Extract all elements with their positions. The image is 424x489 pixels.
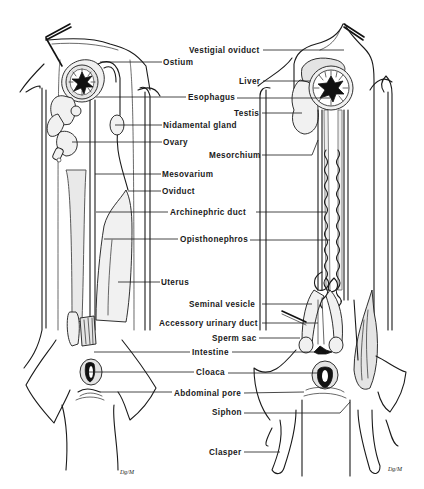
clasper [266, 410, 398, 474]
label-abdominal-pore: Abdominal pore [174, 389, 241, 398]
female-specimen: Dg/M [20, 24, 160, 475]
female-signature: Dg/M [119, 469, 135, 475]
uterus [96, 190, 132, 322]
label-ovary: Ovary [163, 138, 188, 147]
label-intestine: Intestine [192, 348, 229, 357]
dissection-pin-icon [46, 24, 71, 66]
male-cloaca [312, 361, 338, 389]
label-cloaca: Cloaca [196, 368, 225, 377]
label-accessory-urinary-duct: Accessory urinary duct [159, 319, 258, 328]
sperm-sac [299, 337, 313, 353]
label-opisthonephros: Opisthonephros [180, 235, 248, 244]
ovary [47, 96, 81, 162]
label-liver: Liver [239, 77, 261, 86]
male-signature: Dg/M [387, 466, 403, 472]
label-nidamental-gland: Nidamental gland [163, 121, 237, 130]
label-mesorchium: Mesorchium [209, 151, 261, 160]
label-ostium: Ostium [163, 58, 193, 67]
label-esophagus: Esophagus [188, 93, 235, 102]
label-archinephric-duct: Archinephric duct [170, 208, 246, 217]
male-esophagus [309, 66, 353, 110]
male-specimen: Dg/M [254, 24, 406, 476]
label-vestigial-oviduct: Vestigial oviduct [189, 46, 260, 55]
label-clasper: Clasper [209, 448, 242, 457]
female-esophagus [62, 60, 105, 102]
label-testis: Testis [234, 109, 259, 118]
label-sperm-sac: Sperm sac [212, 334, 257, 343]
anatomy-figure: Dg/M [0, 0, 424, 489]
label-seminal-vesicle: Seminal vesicle [189, 300, 255, 309]
labels: Ostium Esophagus Nidamental gland Ovary … [159, 46, 261, 457]
label-siphon: Siphon [212, 408, 242, 417]
label-oviduct: Oviduct [162, 187, 195, 196]
label-uterus: Uterus [161, 278, 189, 287]
label-mesovarium: Mesovarium [162, 170, 213, 179]
seminal-vesicle [302, 290, 343, 344]
